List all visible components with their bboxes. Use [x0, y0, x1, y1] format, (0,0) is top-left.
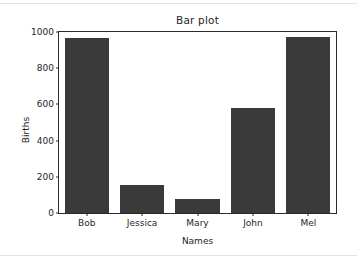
bar-john[interactable] [231, 108, 275, 213]
y-tick-label: 200 [37, 172, 54, 182]
y-tick-label: 400 [37, 136, 54, 146]
x-axis-label: Names [58, 236, 337, 246]
x-tick-label-bob: Bob [78, 218, 95, 228]
y-tick-label: 800 [37, 63, 54, 73]
y-tick-label: 0 [48, 208, 54, 218]
x-tick-label-mary: Mary [186, 218, 208, 228]
plot-axes: 02004006008001000 BobJessicaMaryJohnMel [58, 31, 337, 214]
bar-mary[interactable] [175, 199, 219, 213]
x-tick-mark [197, 213, 198, 216]
bar-slot: John [225, 32, 280, 213]
x-tick-label-jessica: Jessica [127, 218, 158, 228]
bar-chart-figure: Bar plot Births 02004006008001000 BobJes… [0, 0, 357, 259]
y-tick-label: 1000 [31, 27, 54, 37]
plot-area: BobJessicaMaryJohnMel [59, 32, 336, 213]
bar-slot: Mary [170, 32, 225, 213]
chart-title: Bar plot [58, 14, 337, 26]
x-tick-mark [86, 213, 87, 216]
bar-slot: Jessica [114, 32, 169, 213]
y-axis-label: Births [21, 116, 31, 142]
x-tick-label-john: John [243, 218, 263, 228]
bar-slot: Bob [59, 32, 114, 213]
bar-mel[interactable] [286, 37, 330, 213]
bar-jessica[interactable] [120, 185, 164, 213]
bar-bob[interactable] [65, 38, 109, 213]
page-rule-top [0, 3, 357, 4]
x-tick-mark [142, 213, 143, 216]
bar-slot: Mel [281, 32, 336, 213]
y-tick-label: 600 [37, 99, 54, 109]
x-tick-mark [252, 213, 253, 216]
x-tick-mark [308, 213, 309, 216]
x-tick-label-mel: Mel [300, 218, 316, 228]
page-rule-bottom [0, 255, 357, 256]
